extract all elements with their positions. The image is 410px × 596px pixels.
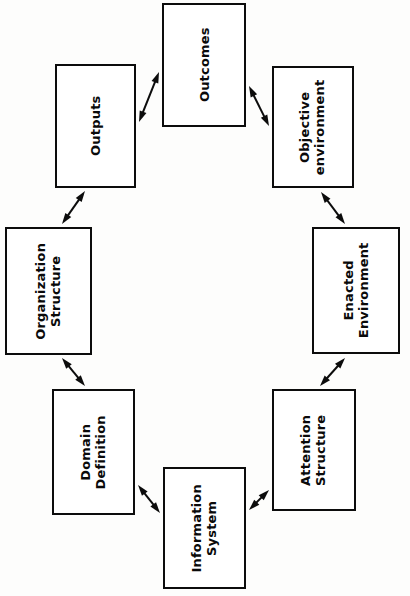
node-label-outcomes: Outcomes bbox=[196, 28, 211, 103]
arrow-shaft bbox=[143, 491, 155, 506]
node-label-line: Outcomes bbox=[196, 28, 211, 103]
arrow-shaft bbox=[325, 364, 339, 380]
arrowhead bbox=[321, 192, 330, 203]
edge-information-domain bbox=[138, 485, 160, 513]
node-objective-environment[interactable]: Objectiveenvironment bbox=[272, 66, 354, 188]
arrowhead bbox=[139, 110, 146, 122]
arrowhead bbox=[150, 502, 160, 513]
node-label-line: Outputs bbox=[88, 96, 103, 156]
arrowhead bbox=[335, 358, 345, 369]
edge-outputs-outcomes bbox=[139, 72, 159, 122]
node-attention-structure[interactable]: AttentionStructure bbox=[272, 389, 356, 511]
arrowhead bbox=[261, 115, 269, 126]
edge-domain-organization bbox=[62, 358, 85, 386]
arrowhead bbox=[62, 358, 72, 369]
arrowhead bbox=[259, 490, 269, 500]
edge-outcomes-objective bbox=[249, 86, 269, 126]
arrowhead bbox=[62, 213, 71, 224]
arrowhead bbox=[320, 375, 330, 386]
node-label-information-system: InformationSystem bbox=[189, 484, 220, 572]
arrow-shaft bbox=[67, 198, 81, 218]
node-organization-structure[interactable]: OrganizationStructure bbox=[5, 227, 92, 355]
node-label-attention-structure: AttentionStructure bbox=[299, 414, 330, 485]
arrow-shaft bbox=[67, 364, 80, 380]
node-label-line: Organization bbox=[33, 243, 48, 340]
node-outputs[interactable]: Outputs bbox=[55, 64, 136, 188]
arrowhead bbox=[75, 375, 85, 386]
node-domain-definition[interactable]: DomainDefinition bbox=[52, 389, 135, 515]
node-label-line: Definition bbox=[93, 415, 108, 489]
arrowhead bbox=[138, 485, 148, 496]
node-label-line: Structure bbox=[314, 414, 329, 485]
diagram-canvas: OutcomesObjectiveenvironmentEnactedEnvir… bbox=[0, 0, 410, 596]
node-information-system[interactable]: InformationSystem bbox=[163, 467, 246, 589]
node-enacted-environment[interactable]: EnactedEnvironment bbox=[312, 227, 400, 354]
node-label-line: Objective bbox=[298, 91, 313, 162]
node-label-line: environment bbox=[313, 79, 328, 175]
arrowhead bbox=[76, 191, 85, 202]
node-label-domain-definition: DomainDefinition bbox=[78, 415, 109, 489]
node-outcomes[interactable]: Outcomes bbox=[162, 3, 246, 127]
arrowhead bbox=[249, 500, 259, 510]
node-label-enacted-environment: EnactedEnvironment bbox=[341, 243, 372, 339]
arrow-shaft bbox=[142, 79, 156, 114]
node-label-line: Domain bbox=[78, 424, 93, 481]
arrowhead bbox=[152, 72, 159, 84]
arrow-shaft bbox=[326, 198, 340, 217]
node-label-objective-environment: Objectiveenvironment bbox=[298, 79, 329, 175]
node-label-line: Structure bbox=[49, 243, 64, 340]
arrow-shaft bbox=[253, 93, 266, 119]
edge-enacted-attention bbox=[320, 358, 345, 386]
node-label-line: Attention bbox=[299, 414, 314, 485]
arrow-shaft bbox=[255, 496, 264, 505]
node-label-line: Information bbox=[189, 484, 204, 572]
node-label-outputs: Outputs bbox=[88, 96, 103, 156]
arrowhead bbox=[336, 213, 345, 224]
node-label-organization-structure: OrganizationStructure bbox=[33, 243, 64, 340]
arrowhead bbox=[249, 86, 257, 97]
node-label-line: System bbox=[205, 484, 220, 572]
edge-organization-outputs bbox=[62, 191, 85, 224]
node-label-line: Environment bbox=[356, 243, 371, 339]
edge-objective-enacted bbox=[321, 192, 345, 224]
node-label-line: Enacted bbox=[341, 260, 356, 320]
edge-attention-information bbox=[249, 490, 269, 510]
